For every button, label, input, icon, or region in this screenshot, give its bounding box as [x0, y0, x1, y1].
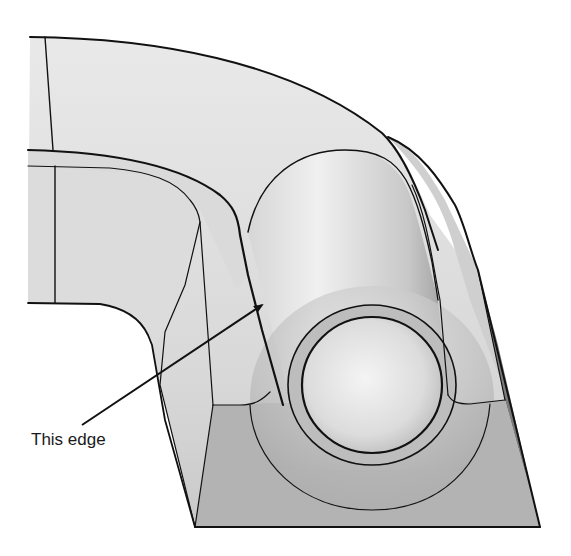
- callout-label: This edge: [31, 430, 106, 450]
- cad-model-figure: [0, 0, 571, 556]
- bore-inner: [302, 317, 442, 453]
- front-bottom-face-overlay: [195, 470, 540, 527]
